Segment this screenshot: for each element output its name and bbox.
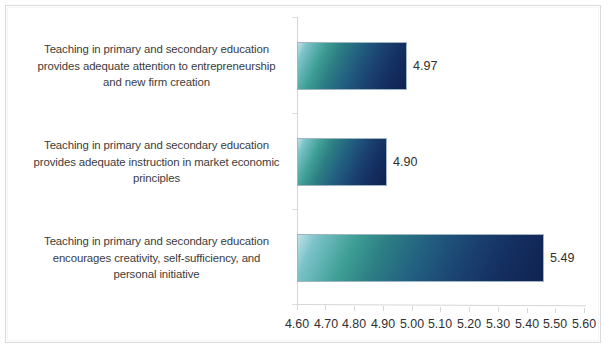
category-label-line: provides adequate instruction in market … — [14, 154, 299, 171]
value-tick-4-90 — [383, 306, 384, 311]
value-tick-4-70 — [325, 305, 326, 310]
value-tick-5-50 — [555, 308, 556, 313]
value-axis-label-10: 5.60 — [564, 317, 604, 331]
category-label-line: provides adequate attention to entrepren… — [14, 58, 299, 75]
category-label-line: Teaching in primary and secondary educat… — [14, 137, 299, 154]
bar-value-label-0: 4.97 — [413, 59, 437, 73]
value-tick-5-20 — [469, 307, 470, 312]
value-tick-4-80 — [354, 306, 355, 311]
category-tick-1 — [292, 113, 297, 114]
category-label-line: Teaching in primary and secondary educat… — [14, 233, 299, 250]
bar-market-economic-instruction[interactable] — [297, 138, 387, 186]
chart-frame: 4.97 4.90 5.49 Teaching in primary and s… — [5, 5, 601, 343]
bar-value-label-1: 4.90 — [393, 155, 417, 169]
category-label-line: encourages creativity, self-sufficiency,… — [14, 250, 299, 267]
category-label-line: Teaching in primary and secondary educat… — [14, 41, 299, 58]
value-tick-5-10 — [440, 307, 441, 312]
bar-creativity-initiative[interactable] — [297, 234, 544, 282]
category-label-line: personal initiative — [14, 266, 299, 283]
category-label-creativity-initiative: Teaching in primary and secondary educat… — [14, 233, 299, 283]
value-tick-4-60 — [297, 305, 298, 310]
bar-entrepreneurship-attention[interactable] — [297, 42, 407, 90]
value-tick-5-00 — [412, 306, 413, 311]
bar-value-label-2: 5.49 — [550, 251, 574, 265]
category-label-market-economic-instruction: Teaching in primary and secondary educat… — [14, 137, 299, 187]
category-label-line: principles — [14, 170, 299, 187]
bar-chart: 4.97 4.90 5.49 Teaching in primary and s… — [0, 0, 609, 354]
value-tick-5-60 — [584, 308, 585, 313]
category-tick-2 — [292, 209, 297, 210]
value-axis-line — [297, 304, 586, 306]
category-label-line: and new firm creation — [14, 74, 299, 91]
category-label-entrepreneurship-attention: Teaching in primary and secondary educat… — [14, 41, 299, 91]
value-tick-5-40 — [527, 308, 528, 313]
value-tick-5-30 — [498, 307, 499, 312]
category-tick-0 — [292, 17, 297, 18]
